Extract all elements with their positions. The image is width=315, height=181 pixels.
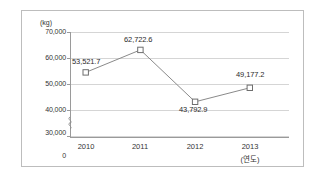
value-label-2010: 53,521.7 bbox=[72, 57, 100, 66]
value-label-2011: 62,722.6 bbox=[124, 35, 152, 44]
data-marker-2010 bbox=[83, 70, 88, 75]
line-chart-figure: (kg) 70,000 60,000 50,000 40,000 30,000 … bbox=[0, 0, 315, 181]
value-label-2012: 43,792.9 bbox=[179, 105, 207, 114]
x-axis-unit-label: (연도) bbox=[227, 153, 273, 164]
data-marker-2013 bbox=[247, 85, 252, 90]
value-label-2013: 49,177.2 bbox=[236, 70, 264, 79]
x-tick-label-2013: 2013 bbox=[230, 142, 270, 151]
x-tick-label-2011: 2011 bbox=[120, 142, 160, 151]
data-marker-2011 bbox=[138, 47, 143, 52]
x-tick-label-2010: 2010 bbox=[66, 142, 106, 151]
data-marker-2012 bbox=[192, 99, 197, 104]
x-tick-label-2012: 2012 bbox=[175, 142, 215, 151]
series-line bbox=[86, 50, 250, 102]
